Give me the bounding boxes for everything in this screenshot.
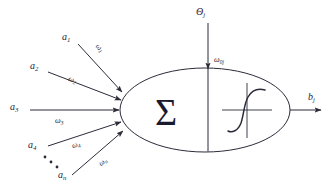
bias-source-label: Θj [196, 7, 205, 19]
input-label-3: a3 [10, 102, 18, 114]
bias-theta-sub: j [203, 11, 205, 18]
weight-label-3: ω3 [55, 117, 63, 126]
bias-weight-sub: 0j [220, 59, 224, 65]
input-arrow-n [72, 131, 123, 175]
input-sub-4: 4 [33, 144, 36, 151]
input-sub-n: n [63, 174, 66, 181]
ellipsis-dot-3 [56, 166, 59, 169]
input-label-4: a4 [28, 140, 36, 152]
bias-weight-label: ω0j [214, 56, 224, 65]
summation-symbol: Σ [155, 91, 177, 133]
ellipsis-dot-2 [50, 161, 53, 164]
diagram-canvas: Σ [0, 0, 333, 191]
input-sub-1: 1 [67, 36, 70, 43]
output-label: bj [308, 92, 315, 104]
input-arrow-2 [48, 72, 121, 100]
input-label-2: a2 [30, 61, 38, 73]
input-label-n: an [58, 170, 66, 182]
weight-sub-3: 3 [61, 120, 64, 126]
input-sub-2: 2 [35, 65, 38, 72]
output-sub: j [313, 96, 315, 103]
input-sub-3: 3 [15, 106, 18, 113]
neuron-diagram: Σ a1 a2 a3 a4 an ω1 ω2 ω3 ω4 ωn Θj ω0j b… [0, 0, 333, 191]
input-label-1: a1 [62, 32, 70, 44]
ellipsis-dot-1 [44, 156, 47, 159]
